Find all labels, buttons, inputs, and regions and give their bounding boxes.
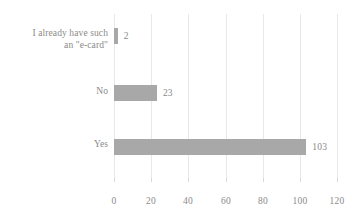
xtick-label-0: 0 <box>94 196 134 206</box>
xtick-label-80: 80 <box>243 196 283 206</box>
xtick-label-60: 60 <box>206 196 246 206</box>
tick-mark-20 <box>151 178 152 182</box>
bar-value-yes: 103 <box>312 139 327 155</box>
xtick-label-20: 20 <box>131 196 171 206</box>
tick-mark-120 <box>337 178 338 182</box>
category-label-line: an "e-card" <box>0 40 108 52</box>
xtick-label-100: 100 <box>280 196 320 206</box>
tick-mark-0 <box>114 178 115 182</box>
xtick-label-120: 120 <box>317 196 357 206</box>
category-label-ecard: I already have such an "e-card" <box>0 28 108 51</box>
category-label-line: Yes <box>0 139 108 151</box>
bar-value-no: 23 <box>163 85 173 101</box>
bar-row-yes: 103 <box>114 120 338 170</box>
category-label-line: I already have such <box>0 28 108 40</box>
bar-row-no: 23 <box>114 67 338 117</box>
tick-mark-100 <box>300 178 301 182</box>
bar-row-ecard: 2 <box>114 14 338 64</box>
tick-mark-60 <box>226 178 227 182</box>
tick-mark-40 <box>188 178 189 182</box>
bar-ecard[interactable] <box>114 28 118 44</box>
plot-area: 2 23 103 0 20 40 60 80 100 120 <box>114 14 338 178</box>
bar-no[interactable] <box>114 85 157 101</box>
category-label-line: No <box>0 86 108 98</box>
xtick-label-40: 40 <box>168 196 208 206</box>
category-label-no: No <box>0 86 108 98</box>
tick-mark-80 <box>263 178 264 182</box>
bar-value-ecard: 2 <box>124 28 129 44</box>
bar-yes[interactable] <box>114 139 306 155</box>
bar-chart: I already have such an "e-card" No Yes 2 <box>0 0 360 210</box>
category-label-yes: Yes <box>0 139 108 151</box>
